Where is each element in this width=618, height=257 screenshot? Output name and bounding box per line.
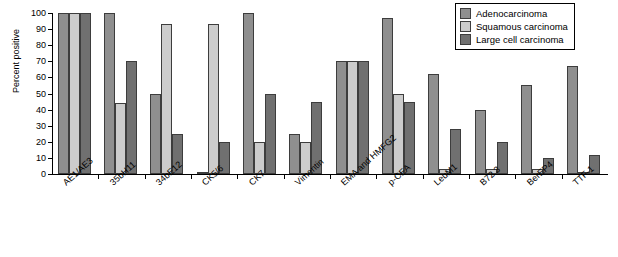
bar	[161, 24, 172, 174]
bar-group-ae1-ae3	[58, 13, 91, 174]
bar-group-ck5-6	[197, 13, 230, 174]
bar	[428, 74, 439, 174]
chart-legend: AdenocarcinomaSquamous carcinomaLarge ce…	[455, 3, 575, 50]
bar	[69, 13, 80, 174]
bar	[289, 134, 300, 174]
bar	[58, 13, 69, 174]
x-axis-labels: AE1/AE335bH1134bE12CK5/6CK7VimentinEMA a…	[52, 176, 608, 256]
y-tick-label-0: 0	[41, 169, 46, 179]
legend-item-adenocarcinoma: Adenocarcinoma	[460, 7, 568, 20]
legend-swatch-icon	[460, 21, 471, 32]
y-tick-label-90: 90	[36, 24, 46, 34]
bar-group-ck7	[243, 13, 276, 174]
bar-group-vimentin	[289, 13, 322, 174]
bar-group-ema-and-hmfg2	[336, 13, 369, 174]
legend-label: Large cell carcinoma	[476, 34, 564, 45]
bar	[150, 94, 161, 175]
bar	[475, 110, 486, 174]
bar-chart: Percent positive 0102030405060708090100 …	[0, 0, 618, 257]
bar	[115, 103, 126, 174]
bar	[393, 94, 404, 175]
bar-group-35bh11	[104, 13, 137, 174]
legend-item-large-cell-carcinoma: Large cell carcinoma	[460, 33, 568, 46]
y-tick-label-10: 10	[36, 153, 46, 163]
legend-label: Squamous carcinoma	[476, 21, 568, 32]
bar	[243, 13, 254, 174]
legend-swatch-icon	[460, 34, 471, 45]
bar	[265, 94, 276, 175]
bar	[347, 61, 358, 174]
y-tick-label-40: 40	[36, 105, 46, 115]
bar	[521, 85, 532, 174]
y-tick-label-70: 70	[36, 56, 46, 66]
bar	[208, 24, 219, 174]
y-tick-label-60: 60	[36, 72, 46, 82]
legend-swatch-icon	[460, 8, 471, 19]
bar	[80, 13, 91, 174]
y-axis-title: Percent positive	[11, 1, 21, 121]
bar	[336, 61, 347, 174]
y-tick-label-50: 50	[36, 89, 46, 99]
y-tick-label-30: 30	[36, 121, 46, 131]
legend-item-squamous-carcinoma: Squamous carcinoma	[460, 20, 568, 33]
y-tick-label-80: 80	[36, 40, 46, 50]
bar-group-34be12	[150, 13, 183, 174]
legend-label: Adenocarcinoma	[476, 8, 547, 19]
bar	[567, 66, 578, 174]
y-tick-label-20: 20	[36, 137, 46, 147]
y-tick-label-100: 100	[31, 8, 46, 18]
y-tick	[48, 174, 52, 175]
bar	[126, 61, 137, 174]
bar	[104, 13, 115, 174]
